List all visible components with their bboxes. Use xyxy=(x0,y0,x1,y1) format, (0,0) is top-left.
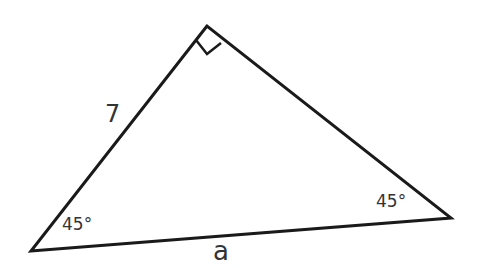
triangle xyxy=(31,26,451,251)
angle-right-label: 45° xyxy=(376,191,406,211)
angle-left-label: 45° xyxy=(62,214,92,234)
side-bottom-label: a xyxy=(213,236,229,266)
right-angle-marker xyxy=(196,40,221,54)
side-left-label: 7 xyxy=(105,100,120,128)
